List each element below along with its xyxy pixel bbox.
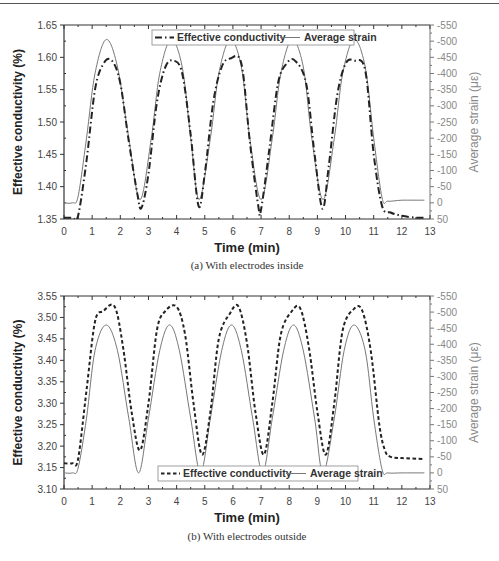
right-tick-label: -550 [437, 291, 457, 302]
right-tick-label: -100 [437, 165, 457, 176]
right-axis-title: Average strain (με) [467, 342, 481, 443]
legend-conductivity-label: Effective conductivity [183, 467, 292, 479]
x-axis-title: Time (min) [214, 240, 280, 255]
right-tick-label: -500 [437, 307, 457, 318]
x-tick-label: 9 [315, 226, 321, 237]
x-tick-label: 11 [368, 226, 379, 237]
right-tick-label: -350 [437, 84, 457, 95]
right-tick-label: -300 [437, 100, 457, 111]
x-tick-label: 5 [202, 226, 208, 237]
x-tick-label: 12 [396, 226, 408, 237]
y-tick-label: 1.50 [38, 117, 58, 128]
chart-a: 0123456789101112131.351.401.451.501.551.… [11, 20, 481, 273]
y-tick-label: 3.30 [38, 398, 58, 409]
y-tick-label: 3.55 [38, 291, 58, 302]
y-tick-label: 3.50 [38, 312, 58, 323]
right-tick-label: 50 [437, 484, 449, 495]
x-tick-label: 6 [230, 226, 236, 237]
x-tick-label: 3 [146, 226, 152, 237]
y-axis-title: Effective conductivity (%) [11, 319, 25, 465]
x-tick-label: 0 [61, 496, 67, 507]
right-tick-label: -300 [437, 371, 457, 382]
x-tick-label: 6 [230, 496, 236, 507]
x-tick-label: 1 [89, 226, 95, 237]
right-axis-title: Average strain (με) [467, 72, 481, 173]
right-tick-label: -250 [437, 117, 457, 128]
x-tick-label: 8 [286, 496, 292, 507]
legend-strain-label: Average strain [310, 467, 383, 479]
right-tick-label: -400 [437, 68, 457, 79]
x-tick-label: 13 [424, 496, 436, 507]
x-tick-label: 1 [89, 496, 95, 507]
x-tick-label: 0 [61, 226, 67, 237]
x-tick-label: 12 [396, 496, 408, 507]
right-tick-label: -100 [437, 435, 457, 446]
legend: Effective conductivityAverage strain [152, 30, 377, 45]
x-tick-label: 2 [118, 496, 124, 507]
y-tick-label: 3.20 [38, 441, 58, 452]
x-tick-label: 11 [368, 496, 379, 507]
right-tick-label: -550 [437, 20, 457, 31]
x-tick-label: 7 [258, 496, 264, 507]
x-axis-title: Time (min) [214, 510, 280, 525]
x-tick-label: 4 [174, 496, 180, 507]
right-tick-label: -450 [437, 52, 457, 63]
legend-strain-label: Average strain [304, 31, 377, 43]
y-axis-title: Effective conductivity (%) [11, 49, 25, 195]
legend-conductivity-label: Effective conductivity [177, 31, 286, 43]
y-tick-label: 1.65 [38, 20, 58, 31]
x-tick-label: 8 [286, 226, 292, 237]
y-tick-label: 3.25 [38, 419, 58, 430]
x-tick-label: 2 [118, 226, 124, 237]
y-tick-label: 1.60 [38, 52, 58, 63]
right-tick-label: -250 [437, 387, 457, 398]
x-tick-label: 10 [340, 226, 352, 237]
right-tick-label: -150 [437, 149, 457, 160]
x-tick-label: 5 [202, 496, 208, 507]
right-tick-label: -400 [437, 339, 457, 350]
right-tick-label: -50 [437, 181, 452, 192]
right-tick-label: -500 [437, 36, 457, 47]
x-tick-label: 13 [424, 226, 436, 237]
legend: Effective conductivityAverage strain [158, 466, 383, 481]
y-tick-label: 1.45 [38, 149, 58, 160]
x-tick-label: 4 [174, 226, 180, 237]
y-tick-label: 3.35 [38, 376, 58, 387]
figure-caption: (a) With electrodes inside [191, 259, 304, 272]
y-tick-label: 1.40 [38, 181, 58, 192]
figure: 0123456789101112131.351.401.451.501.551.… [0, 0, 499, 561]
right-tick-label: 0 [437, 467, 443, 478]
right-tick-label: -150 [437, 419, 457, 430]
y-tick-label: 1.35 [38, 214, 58, 225]
y-tick-label: 1.55 [38, 84, 58, 95]
right-tick-label: -200 [437, 403, 457, 414]
y-tick-label: 3.10 [38, 484, 58, 495]
x-tick-label: 10 [340, 496, 352, 507]
chart-b: 0123456789101112133.103.153.203.253.303.… [11, 291, 481, 544]
x-tick-label: 7 [258, 226, 264, 237]
y-tick-label: 3.45 [38, 333, 58, 344]
right-tick-label: -350 [437, 355, 457, 366]
right-tick-label: 0 [437, 197, 443, 208]
right-tick-label: -450 [437, 323, 457, 334]
x-tick-label: 3 [146, 496, 152, 507]
effective-conductivity-line [64, 56, 424, 221]
x-tick-label: 9 [315, 496, 321, 507]
y-tick-label: 3.40 [38, 355, 58, 366]
right-tick-label: -50 [437, 451, 452, 462]
figure-caption: (b) With electrodes outside [188, 530, 307, 543]
right-tick-label: -200 [437, 133, 457, 144]
right-tick-label: 50 [437, 214, 449, 225]
y-tick-label: 3.15 [38, 462, 58, 473]
